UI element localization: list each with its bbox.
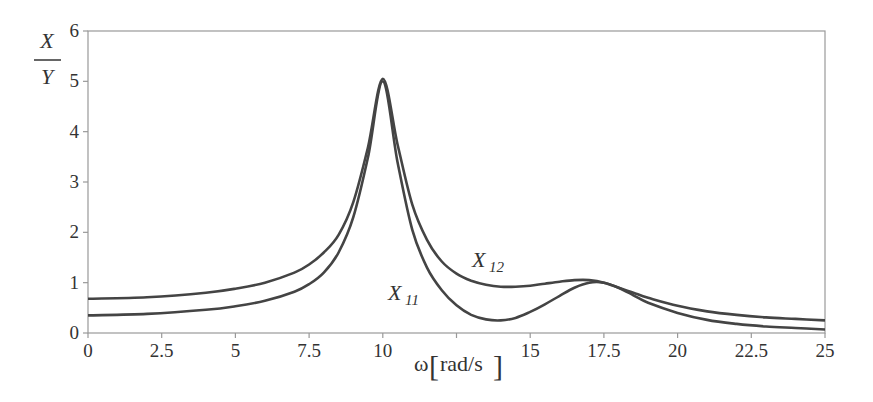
x-tick-label: 25 [816,340,835,361]
x-tick-label: 17.5 [587,340,620,361]
y-axis-title: X Y [34,28,61,89]
plot-border [88,31,825,333]
series-label-x12: X 12 [471,247,505,275]
frequency-response-chart: 0123456 02.557.5101517.52022.525 X Y ω [… [0,0,873,402]
y-axis: 0123456 [70,20,89,343]
x-tick-label: 10 [373,340,392,361]
y-tick-label: 2 [70,221,80,242]
series-label-x12-main: X [471,247,487,272]
plot-frame [88,31,825,333]
x-tick-label: 7.5 [297,340,321,361]
y-axis-title-denominator: Y [41,64,56,89]
x-tick-label: 15 [521,340,540,361]
x-axis-title: ω [ rad/s ] [414,349,503,382]
series-label-x11-main: X [387,280,403,305]
x-tick-label: 20 [668,340,687,361]
y-tick-label: 6 [70,20,80,41]
x-tick-label: 22.5 [735,340,768,361]
series-label-x11: X 11 [387,280,419,308]
left-bracket: [ [429,349,439,382]
x-tick-label: 0 [83,340,93,361]
y-tick-label: 1 [70,272,80,293]
y-tick-label: 0 [70,322,80,343]
x-tick-label: 5 [231,340,241,361]
y-tick-label: 5 [70,70,80,91]
x-axis-title-omega: ω [414,351,428,376]
series-lines [88,79,825,330]
series-label-x12-sub: 12 [489,259,505,275]
right-bracket: ] [493,349,503,382]
x-axis-title-unit: rad/s [440,351,483,376]
y-tick-label: 3 [70,171,80,192]
y-tick-label: 4 [70,121,80,142]
series-line-x12 [88,79,825,321]
x-tick-label: 2.5 [150,340,174,361]
y-axis-title-numerator: X [39,28,55,53]
series-label-x11-sub: 11 [405,292,419,308]
